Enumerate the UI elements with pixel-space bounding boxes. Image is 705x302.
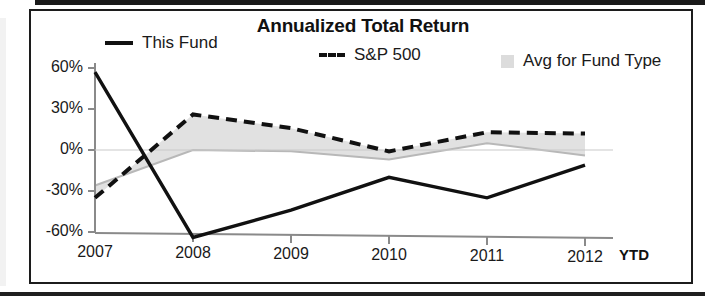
ytick-label-0: 0%	[29, 140, 83, 158]
ytick-label-m60: -60%	[29, 222, 83, 240]
ytick-label-30: 30%	[29, 99, 83, 117]
xtick-label-2010: 2010	[354, 246, 424, 264]
series-avg-for-fund-type	[95, 114, 585, 197]
scan-bottom-rule	[0, 292, 705, 296]
xtick-label-2009: 2009	[256, 245, 326, 263]
xaxis-ytd-label: YTD	[619, 246, 649, 263]
ytick-label-60: 60%	[29, 58, 83, 76]
plot-area	[31, 11, 695, 286]
xtick-label-2008: 2008	[158, 244, 228, 262]
scan-left-edge	[0, 18, 6, 286]
xtick-label-2011: 2011	[452, 247, 522, 265]
xtick-label-2007: 2007	[60, 243, 130, 261]
xtick-label-2012: 2012	[550, 248, 620, 266]
scan-top-rule	[35, 0, 705, 5]
chart-panel: Annualized Total Return This Fund S&P 50…	[29, 9, 693, 284]
ytick-label-m30: -30%	[29, 181, 83, 199]
